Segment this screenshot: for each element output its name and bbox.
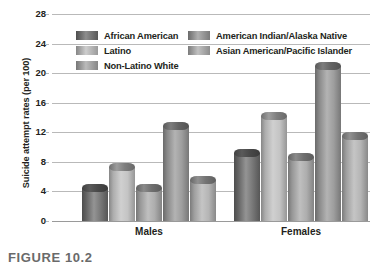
bar-body bbox=[315, 66, 341, 221]
x-axis-label-females: Females bbox=[281, 226, 321, 237]
legend-swatch bbox=[76, 61, 98, 70]
y-tick-label: 24 bbox=[35, 39, 46, 49]
legend-swatch bbox=[76, 46, 98, 55]
bar-body bbox=[190, 180, 216, 221]
bar-body bbox=[109, 167, 135, 221]
y-tick-label: 0 bbox=[41, 216, 46, 226]
legend-item: Latino bbox=[76, 46, 188, 56]
y-axis-title: Suicide attempt rates (per 100) bbox=[21, 36, 31, 211]
legend-label: Non-Latino White bbox=[104, 61, 179, 71]
bar-body bbox=[82, 188, 108, 221]
legend-swatch bbox=[76, 31, 98, 40]
legend-item: American Indian/Alaska Native bbox=[188, 31, 372, 41]
bar-cap bbox=[82, 184, 108, 192]
y-tick-label: 16 bbox=[35, 98, 46, 108]
bar-body bbox=[342, 136, 368, 221]
bar-cap bbox=[234, 149, 260, 157]
y-tick-label: 28 bbox=[35, 9, 46, 19]
y-tick-label: 20 bbox=[35, 68, 46, 78]
tick-mark bbox=[46, 14, 49, 15]
bar-body bbox=[288, 157, 314, 221]
x-axis-label-males: Males bbox=[135, 226, 163, 237]
legend-item: Non-Latino White bbox=[76, 61, 188, 71]
bar-cap bbox=[261, 112, 287, 120]
y-tick-label: 4 bbox=[41, 187, 46, 197]
bar-cap bbox=[342, 132, 368, 140]
bar-cap bbox=[136, 184, 162, 192]
bar bbox=[136, 184, 162, 221]
bar bbox=[261, 112, 287, 221]
bar-body bbox=[234, 153, 260, 221]
legend-label: American Indian/Alaska Native bbox=[216, 31, 347, 41]
y-tick-label: 12 bbox=[35, 128, 46, 138]
legend-swatch bbox=[188, 31, 210, 40]
bar-cap bbox=[288, 153, 314, 161]
tick-mark bbox=[46, 103, 49, 104]
bar bbox=[109, 163, 135, 221]
tick-mark bbox=[46, 221, 49, 222]
bar-cap bbox=[190, 176, 216, 184]
tick-mark bbox=[46, 191, 49, 192]
legend-item: Asian American/Pacific Islander bbox=[188, 46, 372, 56]
bar-body bbox=[136, 188, 162, 221]
bar bbox=[190, 176, 216, 221]
bar bbox=[342, 132, 368, 221]
bar bbox=[82, 184, 108, 221]
legend-label: Asian American/Pacific Islander bbox=[216, 46, 352, 56]
bar bbox=[315, 62, 341, 221]
figure-caption: FIGURE 10.2 bbox=[8, 250, 93, 265]
legend-label: African American bbox=[104, 31, 178, 41]
tick-mark bbox=[46, 44, 49, 45]
legend-item: African American bbox=[76, 31, 188, 41]
bar bbox=[288, 153, 314, 221]
legend-swatch bbox=[188, 46, 210, 55]
bar-body bbox=[261, 116, 287, 221]
y-tick-label: 8 bbox=[41, 157, 46, 167]
bar bbox=[234, 149, 260, 221]
bar-cap bbox=[163, 122, 189, 130]
bar-cap bbox=[109, 163, 135, 171]
tick-mark bbox=[46, 132, 49, 133]
chart-legend: African AmericanAmerican Indian/Alaska N… bbox=[76, 28, 372, 73]
bar-body bbox=[163, 126, 189, 221]
legend-label: Latino bbox=[104, 46, 131, 56]
bar bbox=[163, 122, 189, 221]
tick-mark bbox=[46, 162, 49, 163]
tick-mark bbox=[46, 73, 49, 74]
